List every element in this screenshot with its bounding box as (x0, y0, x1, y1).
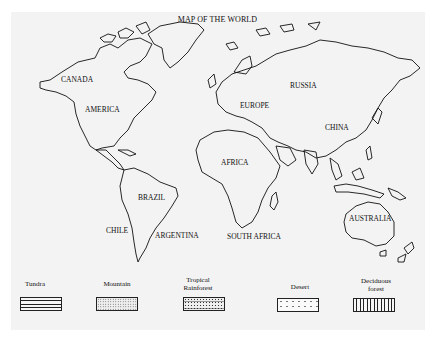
legend-label-deciduous-forest: Deciduousforest (341, 277, 411, 293)
legend-label-tropical-rainforest: TropicalRainforest (163, 276, 233, 292)
legend-label-desert: Desert (265, 283, 335, 291)
legend-label-mountain: Mountain (82, 280, 152, 288)
legend-swatch-mountain (96, 297, 138, 311)
greenland-outline (148, 22, 204, 68)
label-africa: AFRICA (221, 159, 249, 167)
label-brazil: BRAZIL (138, 194, 165, 202)
africa-outline (196, 130, 280, 228)
label-europe: EUROPE (240, 102, 269, 110)
label-chile: CHILE (106, 227, 128, 235)
legend-label-tundra: Tundra (0, 280, 70, 288)
label-america: AMERICA (85, 106, 120, 114)
label-russia: RUSSIA (290, 82, 317, 90)
label-south-africa: SOUTH AFRICA (227, 233, 281, 241)
label-china: CHINA (325, 124, 349, 132)
south-america-outline (120, 168, 178, 262)
legend-swatch-tundra (20, 297, 62, 311)
north-america-outline (40, 38, 156, 150)
australia-outline (344, 202, 394, 246)
label-australia: AUSTRALIA (349, 215, 392, 223)
legend-swatch-desert (277, 298, 319, 312)
label-argentina: ARGENTINA (155, 232, 199, 240)
label-canada: CANADA (61, 76, 93, 84)
legend-swatch-deciduous-forest (353, 298, 395, 312)
legend-swatch-tropical-rainforest (183, 297, 225, 311)
